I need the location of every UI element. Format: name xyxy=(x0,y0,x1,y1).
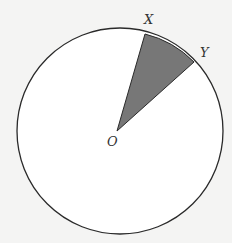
circle xyxy=(17,28,223,234)
circle-sector-diagram: X Y O xyxy=(0,0,232,243)
point-label-x: X xyxy=(143,12,154,27)
point-label-o: O xyxy=(107,134,118,149)
point-label-y: Y xyxy=(200,45,210,60)
diagram-canvas: X Y O xyxy=(0,0,232,243)
